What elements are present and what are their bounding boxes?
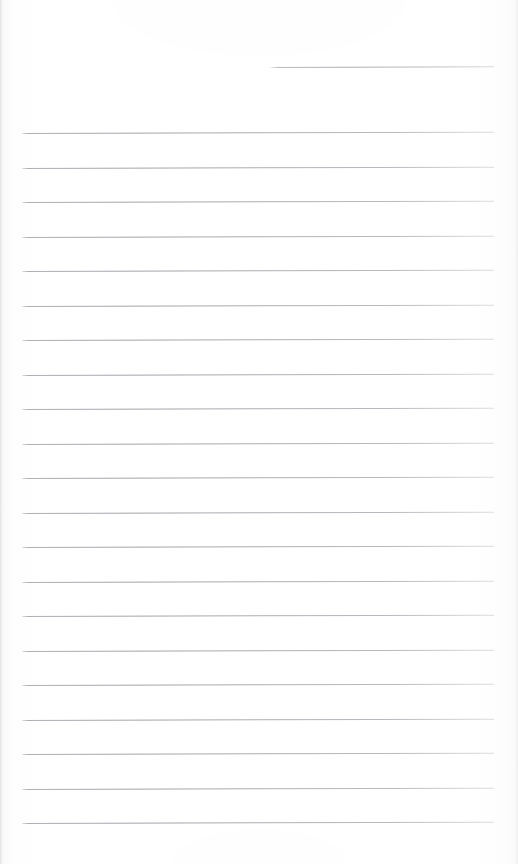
- rule-line: [22, 270, 494, 272]
- rule-line: [22, 511, 494, 513]
- rule-line: [22, 546, 494, 548]
- rule-line: [22, 442, 494, 444]
- rule-line: [22, 822, 494, 824]
- rule-line: [22, 304, 494, 306]
- rule-line: [22, 718, 494, 720]
- top-crop-artifact: [0, 0, 518, 9]
- paper-texture: [0, 0, 518, 864]
- rule-line: [22, 615, 494, 617]
- rule-line: [22, 132, 494, 134]
- rule-line: [22, 408, 494, 410]
- rule-line: [22, 477, 494, 479]
- rule-line: [22, 580, 494, 582]
- rule-line: [22, 753, 494, 755]
- rule-line: [22, 373, 494, 375]
- rule-line: [22, 235, 494, 237]
- rule-line: [22, 166, 494, 168]
- rule-line: [22, 339, 494, 341]
- rule-line: [22, 684, 494, 686]
- page-left-edge: [0, 0, 3, 864]
- scanned-page: [0, 0, 518, 864]
- rule-line: [22, 787, 494, 789]
- rule-line: [22, 201, 494, 203]
- rule-line: [22, 649, 494, 651]
- partial-rule-line: [270, 66, 494, 68]
